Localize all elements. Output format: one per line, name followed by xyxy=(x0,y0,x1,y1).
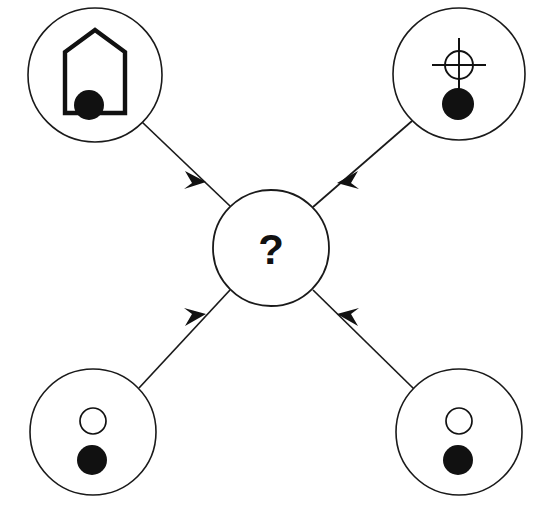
hollow-dot-icon-bottom-right xyxy=(446,408,472,434)
edge-line-top-right xyxy=(313,121,412,207)
center-node-label: ? xyxy=(258,226,284,273)
node-bottom-left[interactable] xyxy=(30,369,156,495)
diagram-svg: ? xyxy=(0,0,541,507)
node-top-left[interactable] xyxy=(28,8,162,142)
diagram-canvas: ? xyxy=(0,0,541,507)
filled-dot-icon-top-left xyxy=(74,90,104,120)
filled-dot-icon-top-right xyxy=(442,88,474,120)
node-top-right[interactable] xyxy=(393,8,525,140)
arrowhead-bottom-left xyxy=(184,308,206,326)
arrowhead-top-right xyxy=(337,171,359,189)
node-center[interactable]: ? xyxy=(213,190,329,306)
edge-top-left-to-center[interactable] xyxy=(142,122,230,206)
edge-line-bottom-right xyxy=(313,290,414,389)
filled-dot-icon-bottom-left xyxy=(77,445,107,475)
edge-line-top-left xyxy=(142,122,230,206)
edge-line-bottom-left xyxy=(139,290,230,388)
filled-dot-icon-bottom-right xyxy=(443,445,473,475)
edge-top-right-to-center[interactable] xyxy=(313,121,412,207)
node-bottom-right[interactable] xyxy=(396,369,522,495)
edge-bottom-left-to-center[interactable] xyxy=(139,290,230,388)
edge-bottom-right-to-center[interactable] xyxy=(313,290,414,389)
hollow-dot-icon-bottom-left xyxy=(80,408,106,434)
